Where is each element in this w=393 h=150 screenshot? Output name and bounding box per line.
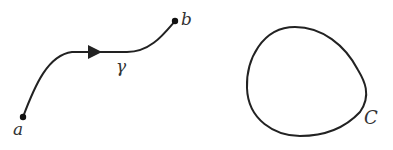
point-b-dot xyxy=(172,18,178,24)
open-curve-gamma: a b γ xyxy=(13,9,192,139)
closed-curve-c: C xyxy=(247,27,378,136)
label-b: b xyxy=(181,9,192,29)
curve-gamma-path-tail xyxy=(95,21,175,52)
label-a: a xyxy=(13,119,23,139)
diagram-canvas: a b γ C xyxy=(0,0,393,150)
closed-curve-path xyxy=(247,27,366,136)
label-c: C xyxy=(364,107,378,128)
curve-gamma-path xyxy=(23,52,95,117)
label-gamma: γ xyxy=(116,56,127,76)
